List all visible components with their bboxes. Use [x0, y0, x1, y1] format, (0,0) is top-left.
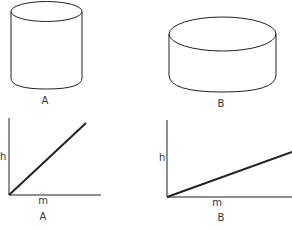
graph-a-y-label: h [0, 151, 6, 162]
graph-a-line [9, 123, 86, 195]
graph-b [167, 120, 292, 197]
graph-a-x-label: m [38, 195, 48, 206]
cylinder-b-label: B [218, 98, 225, 109]
diagram-canvas: A B h m A h m B [0, 0, 292, 230]
graph-a [9, 118, 101, 195]
graph-b-label: B [218, 212, 225, 223]
cylinder-b-bottom [169, 75, 276, 92]
graph-a-label: A [40, 211, 47, 222]
cylinder-b-top [169, 17, 276, 51]
graph-b-y-label: h [159, 152, 165, 163]
cylinder-b [169, 17, 276, 92]
cylinder-a-label: A [42, 95, 49, 106]
cylinder-a-top [11, 2, 82, 22]
cylinder-a [11, 2, 82, 90]
graph-b-x-label: m [212, 197, 222, 208]
graph-b-line [167, 152, 292, 197]
cylinder-a-bottom [11, 78, 82, 89]
